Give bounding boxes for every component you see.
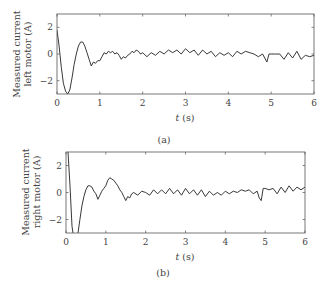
x-tick-label: 4 [225, 98, 231, 108]
x-tick-label: 1 [97, 98, 103, 108]
x-tick-label: 4 [222, 237, 228, 247]
chart-caption: (b) [156, 267, 170, 278]
figure: Measured current left motor (A) t (s) (a… [0, 0, 322, 286]
chart-caption: (a) [157, 134, 170, 145]
x-axis-label: t (s) [175, 112, 194, 123]
x-axis-label: t (s) [175, 251, 194, 262]
y-tick-label: 0 [56, 188, 62, 198]
x-tick-label: 1 [103, 237, 109, 247]
x-tick-label: 3 [183, 237, 189, 247]
y-axis-label-line-2: left motor (A) [22, 21, 33, 86]
y-axis-label-line-1: Measured current [20, 148, 31, 236]
x-tick-label: 0 [63, 237, 69, 247]
x-tick-label: 3 [183, 98, 189, 108]
y-tick-label: 2 [47, 22, 53, 32]
x-tick-label: 5 [268, 98, 274, 108]
x-axis-label-unit: (s) [179, 251, 194, 262]
y-axis-label-line-1: Measured current [11, 10, 22, 98]
x-tick-label: 0 [54, 98, 60, 108]
x-tick-label: 6 [311, 98, 317, 108]
plot-frame [66, 152, 305, 233]
y-tick-label: 0 [47, 49, 53, 59]
series-line [68, 152, 305, 240]
y-tick-label: −2 [49, 215, 62, 225]
x-tick-label: 2 [140, 98, 146, 108]
chart-a-left-motor: Measured current left motor (A) t (s) (a… [11, 10, 317, 145]
y-axis-label-line-2: right motor (A) [31, 156, 42, 229]
x-axis-label-unit: (s) [179, 112, 194, 123]
y-tick-label: 2 [56, 161, 62, 171]
series-line [57, 30, 314, 94]
x-tick-label: 2 [143, 237, 149, 247]
chart-b-right-motor: Measured current right motor (A) t (s) (… [20, 148, 308, 278]
y-tick-label: −2 [40, 76, 53, 86]
x-tick-label: 6 [302, 237, 308, 247]
x-tick-label: 5 [262, 237, 268, 247]
